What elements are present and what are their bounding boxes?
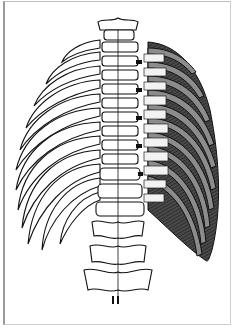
right-ribs-muscles [144, 42, 219, 261]
left-ribs [16, 40, 100, 250]
ribcage-illustration [0, 0, 234, 327]
